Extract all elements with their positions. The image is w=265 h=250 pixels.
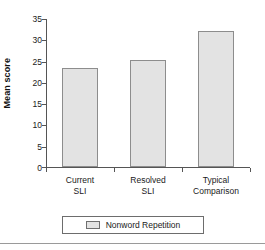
y-tick-label: 20	[24, 79, 42, 88]
bar-resolved-sli[interactable]	[130, 60, 166, 167]
x-category-label-current-sli: Current SLI	[46, 175, 114, 196]
x-category-line: Current	[46, 175, 114, 186]
x-tick-mark	[46, 168, 47, 172]
x-tick-mark	[250, 168, 251, 172]
y-axis-title: Mean score	[2, 58, 16, 109]
y-tick-label: 25	[24, 58, 42, 67]
legend-entry-label: Nonword Repetition	[106, 221, 181, 230]
bar-chart-figure: Mean score 35 30 25 20 15 10 5 0	[0, 0, 265, 250]
y-axis-tick-labels: 35 30 25 20 15 10 5 0	[20, 0, 42, 215]
x-category-line: Comparison	[182, 186, 250, 197]
x-category-line: Resolved	[114, 175, 182, 186]
y-tick-label: 10	[24, 121, 42, 130]
y-tick-label: 5	[24, 143, 42, 152]
y-tick-label: 0	[24, 164, 42, 173]
y-tick-label: 15	[24, 100, 42, 109]
x-category-line: Typical	[182, 175, 250, 186]
plot-area: Mean score 35 30 25 20 15 10 5 0	[0, 0, 265, 215]
bar-current-sli[interactable]	[62, 68, 98, 167]
bar-typical-comparison[interactable]	[198, 31, 234, 167]
x-tick-mark	[114, 168, 115, 172]
legend: Nonword Repetition	[62, 216, 204, 234]
x-category-label-typical-comparison: Typical Comparison	[182, 175, 250, 196]
x-category-label-resolved-sli: Resolved SLI	[114, 175, 182, 196]
y-tick-label: 30	[24, 36, 42, 45]
x-category-line: SLI	[46, 186, 114, 197]
bars-layer	[46, 19, 250, 167]
bottom-divider	[0, 243, 265, 244]
x-tick-mark	[182, 168, 183, 172]
x-axis-line	[46, 167, 250, 168]
x-category-line: SLI	[114, 186, 182, 197]
y-tick-label: 35	[24, 15, 42, 24]
nonword-repetition-swatch	[86, 221, 100, 229]
x-axis-category-labels: Current SLI Resolved SLI Typical Compari…	[46, 175, 250, 211]
